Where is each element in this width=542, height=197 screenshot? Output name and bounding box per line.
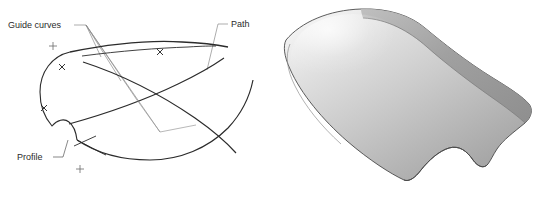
plus-markers: [49, 42, 84, 173]
label-guide-curves: Guide curves: [8, 20, 62, 30]
profile-leader-line: [53, 140, 68, 157]
cross-markers: [41, 49, 163, 111]
sweep-path: [83, 62, 236, 153]
wireframe-diagram: Guide curves Path Profile: [0, 0, 271, 197]
profile-curve: [40, 52, 77, 140]
guide-curve-lower: [77, 80, 253, 160]
label-path: Path: [231, 19, 250, 29]
cross-section-line-2: [160, 125, 196, 132]
cross-section-line-1: [137, 100, 160, 132]
guide-curves-leader-lines: [74, 25, 160, 132]
sweep-path-secondary: [69, 58, 224, 124]
wireframe-canvas: Guide curves Path Profile: [0, 0, 271, 197]
label-profile: Profile: [17, 152, 43, 162]
shaded-3d-surface: [271, 0, 542, 197]
guide-curve-upper: [70, 41, 228, 52]
render-canvas: [271, 0, 542, 197]
figure-root: Guide curves Path Profile: [0, 0, 542, 197]
surface-highlight: [291, 14, 415, 98]
